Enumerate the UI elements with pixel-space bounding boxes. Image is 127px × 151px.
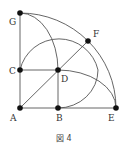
geometry-figure: G C D A B E F 図 4	[0, 0, 127, 151]
point-E	[113, 105, 119, 111]
label-A: A	[9, 113, 17, 123]
label-D: D	[61, 74, 68, 84]
point-C	[17, 67, 23, 73]
figure-caption: 図 4	[56, 134, 72, 143]
label-E: E	[108, 113, 115, 123]
label-B: B	[56, 113, 63, 123]
label-G: G	[9, 17, 16, 27]
point-B	[55, 105, 61, 111]
label-F: F	[93, 29, 99, 39]
arc-CFB	[20, 39, 98, 108]
label-C: C	[9, 66, 16, 76]
point-D	[55, 67, 61, 73]
point-F	[85, 38, 91, 44]
point-G	[17, 10, 23, 16]
arc-GD	[20, 13, 58, 70]
point-A	[17, 105, 23, 111]
